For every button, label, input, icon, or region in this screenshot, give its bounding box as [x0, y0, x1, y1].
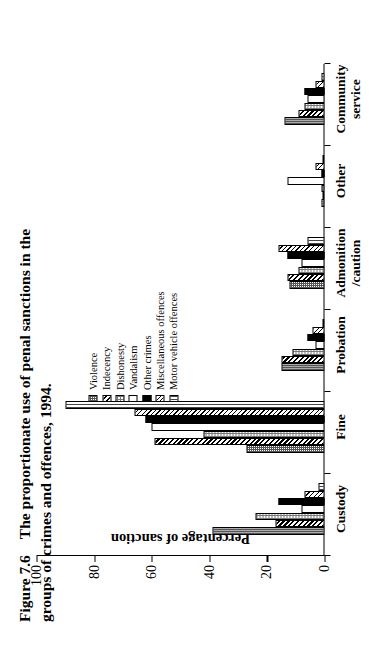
bar	[312, 327, 324, 334]
y-axis-tick-label: 60	[143, 565, 159, 579]
bar	[145, 416, 324, 423]
bar	[289, 281, 324, 288]
x-axis-tick	[324, 309, 330, 310]
bar-group-other: Other	[36, 155, 324, 206]
bar	[321, 199, 324, 206]
x-axis-category-line: Admonition	[333, 229, 348, 298]
x-axis-category-label: Admonition/caution	[333, 229, 363, 298]
bar	[287, 177, 324, 184]
bar	[281, 356, 324, 363]
bar	[281, 363, 324, 370]
bar	[307, 237, 324, 244]
bar	[304, 103, 324, 110]
bar	[321, 73, 324, 80]
x-axis-category-label: Communityservice	[333, 65, 363, 134]
bar	[292, 349, 324, 356]
y-axis-line	[36, 555, 324, 556]
bar	[298, 267, 324, 274]
y-axis-tick	[209, 556, 210, 562]
y-axis-tick-label: 100	[28, 565, 44, 586]
x-axis-tick	[324, 145, 330, 146]
plot-area: Percentage of sanction 020406080100Custo…	[36, 64, 324, 556]
x-axis-category-line: Other	[333, 164, 348, 199]
x-axis-category-label: Custody	[333, 485, 348, 533]
bar	[307, 334, 324, 341]
bar	[278, 498, 324, 505]
bar	[301, 505, 324, 512]
y-axis-tick-label: 0	[316, 565, 332, 572]
x-axis-category-label: Fine	[333, 414, 348, 440]
bar	[134, 409, 324, 416]
x-axis-category-line: Community	[333, 65, 348, 134]
y-axis-tick	[36, 556, 37, 562]
y-axis-tick-label: 80	[86, 565, 102, 579]
bar-group-community: Communityservice	[36, 73, 324, 124]
figure-caption-line1: The proportionate use of penal sanctions…	[15, 229, 32, 539]
bar	[315, 163, 324, 170]
bar	[304, 491, 324, 498]
x-axis-category-line: /caution	[348, 229, 363, 298]
bar	[304, 88, 324, 95]
bar-group-fine: Fine	[36, 401, 324, 452]
x-axis-line	[323, 64, 324, 556]
bar	[321, 170, 324, 177]
bar	[322, 155, 324, 162]
bar	[284, 117, 324, 124]
bar	[154, 438, 324, 445]
y-axis-tick-label: 20	[258, 565, 274, 579]
y-axis-tick	[94, 556, 95, 562]
bar	[203, 431, 324, 438]
bar	[315, 341, 324, 348]
bar	[65, 401, 324, 408]
figure-rotation-wrapper: Figure 7.6The proportionate use of penal…	[0, 0, 387, 660]
bar	[246, 445, 324, 452]
x-axis-category-line: Probation	[333, 316, 348, 374]
figure-canvas: Figure 7.6The proportionate use of penal…	[0, 0, 387, 660]
bar	[212, 527, 324, 534]
bar	[318, 483, 324, 490]
bar	[301, 259, 324, 266]
bar	[151, 423, 324, 430]
x-axis-category-line: Custody	[333, 485, 348, 533]
x-axis-category-label: Probation	[333, 316, 348, 374]
x-axis-category-line: Fine	[333, 414, 348, 440]
x-axis-tick	[324, 63, 330, 64]
y-axis-tick	[266, 556, 267, 562]
bar	[307, 95, 324, 102]
bar	[321, 185, 324, 192]
x-axis-tick	[324, 473, 330, 474]
bar	[255, 513, 324, 520]
bar	[322, 319, 324, 326]
bar	[315, 81, 324, 88]
x-axis-category-line: service	[348, 65, 363, 134]
bar	[275, 520, 324, 527]
x-axis-tick	[324, 555, 330, 556]
bar	[322, 192, 324, 199]
y-axis-tick	[324, 556, 325, 562]
x-axis-category-label: Other	[333, 164, 348, 199]
y-axis-tick-label: 40	[201, 565, 217, 579]
bar-group-admonition: Admonition/caution	[36, 237, 324, 288]
bar	[298, 110, 324, 117]
x-axis-tick	[324, 391, 330, 392]
y-axis-tick	[151, 556, 152, 562]
bar	[287, 274, 324, 281]
x-axis-tick	[324, 227, 330, 228]
bar-group-probation: Probation	[36, 319, 324, 370]
bar	[278, 245, 324, 252]
bar-group-custody: Custody	[36, 483, 324, 534]
bar	[287, 252, 324, 259]
